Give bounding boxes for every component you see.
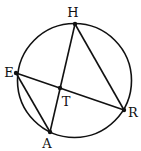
segment-ha (50, 24, 75, 132)
label-r: R (128, 105, 139, 120)
label-e: E (4, 65, 14, 80)
geometry-diagram: HEART (0, 0, 141, 151)
circle (18, 24, 132, 138)
point-t (58, 86, 62, 90)
labels-group: HEART (4, 5, 139, 151)
label-a: A (41, 136, 52, 151)
chords-group (16, 24, 124, 132)
point-e (14, 71, 18, 75)
point-a (48, 130, 52, 134)
point-r (122, 108, 126, 112)
segment-hr (75, 24, 124, 110)
label-h: H (67, 5, 78, 20)
label-t: T (62, 94, 71, 109)
point-h (73, 22, 77, 26)
